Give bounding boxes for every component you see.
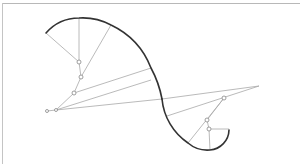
diagram-canvas (0, 0, 300, 164)
radius-line (209, 129, 210, 150)
radius-line (46, 33, 79, 62)
center-3-point (72, 91, 76, 95)
radius-line (81, 25, 111, 77)
radius-lines (46, 18, 259, 150)
radius-line (207, 98, 224, 120)
center-4-point (55, 109, 58, 112)
radius-line (56, 80, 151, 110)
radius-line (74, 68, 151, 93)
center-7-point (205, 118, 209, 122)
center-6-point (222, 96, 226, 100)
center-5-point (46, 110, 49, 113)
spiral-diagram (0, 0, 300, 164)
center-8-point (207, 127, 211, 131)
center-1-point (77, 60, 81, 64)
upper-curve (46, 18, 162, 99)
center-2-point (79, 75, 83, 79)
radius-line (56, 99, 162, 110)
arc-centers (46, 60, 227, 131)
radius-line (162, 86, 259, 99)
radius-line (74, 77, 81, 93)
